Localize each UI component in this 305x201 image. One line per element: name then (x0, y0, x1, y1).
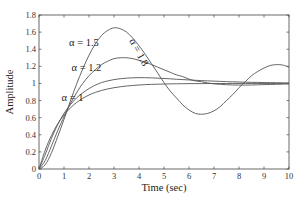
y-axis-label: Amplitude (4, 69, 15, 114)
curve-label: α = 1 (62, 92, 84, 103)
x-axis-label: Time (sec) (142, 182, 187, 194)
x-tick-label: 1 (62, 171, 66, 181)
x-tick-label: 3 (112, 171, 116, 181)
x-tick-label: 0 (37, 171, 41, 181)
x-tick-label: 5 (162, 171, 166, 181)
y-tick-label: 1.2 (25, 61, 36, 71)
step-response-chart: 01234567891000.20.40.60.811.21.41.61.8 α… (0, 0, 305, 201)
curve-label: α = 1.8 (127, 36, 151, 67)
y-tick-label: 1.4 (25, 44, 36, 54)
y-tick-label: 0.4 (25, 130, 36, 140)
x-tick-label: 10 (285, 171, 294, 181)
y-tick-label: 0.8 (25, 96, 36, 106)
y-tick-label: 0.6 (25, 113, 36, 123)
y-tick-label: 0 (32, 164, 36, 174)
curve-series-2 (39, 58, 289, 169)
x-tick-label: 9 (262, 171, 266, 181)
x-tick-label: 8 (237, 171, 241, 181)
x-tick-label: 2 (87, 171, 91, 181)
y-tick-label: 1.8 (25, 10, 36, 20)
x-tick-label: 4 (137, 171, 142, 181)
curve-label: α = 1.2 (72, 62, 102, 73)
x-tick-label: 6 (187, 171, 191, 181)
y-tick-label: 1.6 (25, 27, 36, 37)
curve-annotations: α = 1α = 1.2α = 1.5α = 1.8 (62, 36, 151, 102)
x-tick-label: 7 (212, 171, 216, 181)
y-tick-label: 1 (32, 78, 36, 88)
y-tick-label: 0.2 (25, 147, 36, 157)
curve-label: α = 1.5 (69, 37, 99, 48)
